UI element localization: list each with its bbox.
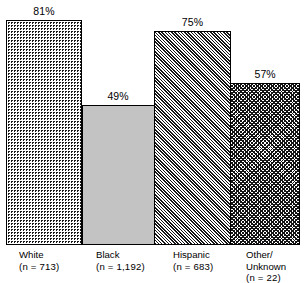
value-label-other-unknown: 57% (230, 68, 300, 80)
bar-chart: 81% 49% 75% 57% White (n = 713) Black (n… (0, 0, 306, 283)
value-label-hispanic: 75% (154, 16, 231, 28)
category-n-white: (n = 713) (19, 261, 59, 273)
category-n-black: (n = 1,192) (96, 261, 145, 273)
value-label-white: 81% (6, 5, 82, 17)
category-n-other-unknown: (n = 22) (246, 272, 286, 283)
category-label-other-unknown: Other/ Unknown (n = 22) (246, 249, 286, 283)
category-name-unknown: Unknown (246, 261, 286, 273)
bar-white (6, 20, 82, 245)
bar-hispanic (154, 31, 231, 245)
category-axis-labels: White (n = 713) Black (n = 1,192) Hispan… (0, 249, 306, 283)
category-n-hispanic: (n = 683) (173, 261, 213, 273)
category-label-white: White (n = 713) (19, 249, 59, 272)
category-label-black: Black (n = 1,192) (96, 249, 145, 272)
category-name-white: White (19, 249, 59, 261)
category-name-other: Other/ (246, 249, 286, 261)
category-name-hispanic: Hispanic (173, 249, 213, 261)
plot-area: 81% 49% 75% 57% (6, 0, 300, 245)
category-name-black: Black (96, 249, 145, 261)
bar-group (6, 0, 300, 245)
category-label-hispanic: Hispanic (n = 683) (173, 249, 213, 272)
bar-black (82, 105, 155, 245)
bar-other-unknown (230, 83, 300, 245)
value-label-black: 49% (82, 90, 155, 102)
